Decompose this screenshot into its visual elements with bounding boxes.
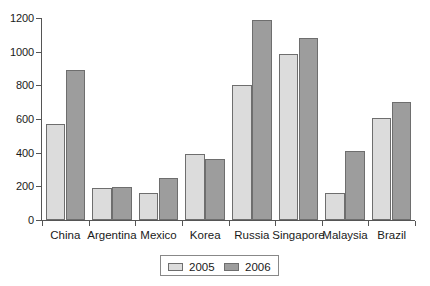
legend-swatch-2005-icon [168, 263, 183, 271]
bar-group [279, 18, 319, 220]
x-axis-tick-mark [415, 221, 416, 226]
bar-singapore-2005 [279, 54, 299, 220]
legend-item-2005: 2005 [168, 260, 215, 273]
bar-mexico-2006 [159, 178, 179, 220]
bars-container [42, 18, 415, 220]
y-axis-tick-label: 800 [0, 80, 34, 91]
y-axis-tick-label: 200 [0, 181, 34, 192]
chart-legend: 2005 2006 [160, 255, 279, 276]
x-axis-label-russia: Russia [234, 228, 269, 242]
legend-label-2005: 2005 [189, 261, 215, 273]
bar-korea-2005 [185, 154, 205, 220]
x-axis-label-malaysia: Malaysia [322, 228, 367, 242]
x-axis-tick-mark [322, 221, 323, 226]
bar-malaysia-2005 [325, 193, 345, 220]
bar-group [185, 18, 225, 220]
plot-area: 020040060080010001200 [0, 0, 430, 240]
legend-label-2006: 2006 [245, 261, 271, 273]
y-axis-tick-mark [36, 85, 41, 86]
x-axis-tick-mark [135, 221, 136, 226]
x-axis-tick-mark [368, 221, 369, 226]
bar-brazil-2006 [392, 102, 412, 220]
legend-swatch-2006-icon [224, 263, 239, 271]
bar-korea-2006 [205, 159, 225, 220]
y-axis-tick-mark [36, 186, 41, 187]
x-axis-label-brazil: Brazil [377, 228, 406, 242]
bar-singapore-2006 [299, 38, 319, 220]
x-axis-tick-mark [229, 221, 230, 226]
bar-russia-2005 [232, 85, 252, 221]
bar-group [232, 18, 272, 220]
y-axis-tick-label: 0 [0, 215, 34, 226]
x-axis-tick-mark [275, 221, 276, 226]
bar-group [139, 18, 179, 220]
x-axis-tick-mark [42, 221, 43, 226]
bar-mexico-2005 [139, 193, 159, 220]
y-axis-tick-mark [36, 119, 41, 120]
y-axis-tick-mark [36, 153, 41, 154]
y-axis-tick-label: 600 [0, 114, 34, 125]
x-axis-label-korea: Korea [190, 228, 221, 242]
y-axis-tick-labels: 020040060080010001200 [0, 0, 34, 240]
bar-argentina-2006 [112, 187, 132, 220]
bar-argentina-2005 [92, 188, 112, 220]
bar-group [46, 18, 86, 220]
x-axis-label-argentina: Argentina [87, 228, 136, 242]
y-axis-tick-mark [36, 220, 41, 221]
x-axis-label-singapore: Singapore [272, 228, 324, 242]
bar-china-2005 [46, 124, 66, 220]
bar-brazil-2005 [372, 118, 392, 220]
y-axis-tick-label: 400 [0, 147, 34, 158]
bar-china-2006 [66, 70, 86, 220]
bar-russia-2006 [252, 20, 272, 220]
bar-chart: 020040060080010001200 ChinaArgentinaMexi… [0, 0, 430, 286]
y-axis-tick-label: 1000 [0, 46, 34, 57]
bar-group [92, 18, 132, 220]
bar-malaysia-2006 [345, 151, 365, 220]
bar-group [372, 18, 412, 220]
x-axis-tick-mark [89, 221, 90, 226]
y-axis-tick-mark [36, 18, 41, 19]
bar-group [325, 18, 365, 220]
x-axis-tick-mark [182, 221, 183, 226]
x-axis-category-labels: ChinaArgentinaMexicoKoreaRussiaSingapore… [0, 228, 430, 246]
x-axis-label-mexico: Mexico [140, 228, 176, 242]
x-axis-label-china: China [50, 228, 80, 242]
y-axis-tick-mark [36, 52, 41, 53]
y-axis-tick-label: 1200 [0, 13, 34, 24]
legend-item-2006: 2006 [224, 260, 271, 273]
